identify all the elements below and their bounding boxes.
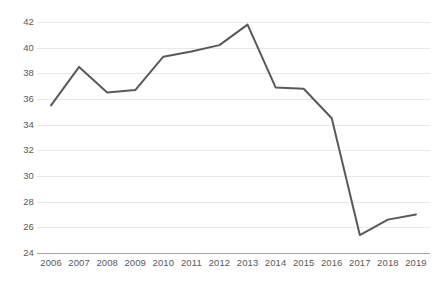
- y-tick-label: 24: [4, 248, 34, 258]
- y-tick-label: 30: [4, 171, 34, 181]
- x-axis-line: [37, 253, 430, 254]
- y-tick-label: 32: [4, 145, 34, 155]
- series-line-group: [37, 22, 430, 253]
- y-tick-label: 40: [4, 43, 34, 53]
- y-tick-label: 26: [4, 222, 34, 232]
- y-tick-label: 36: [4, 94, 34, 104]
- line-chart: 24262830323436384042 2006200720082009201…: [0, 0, 447, 283]
- y-tick-label: 34: [4, 120, 34, 130]
- y-tick-label: 28: [4, 197, 34, 207]
- series-line: [51, 25, 416, 235]
- x-tick-label: 2019: [395, 258, 437, 268]
- y-tick-label: 38: [4, 68, 34, 78]
- y-tick-label: 42: [4, 17, 34, 27]
